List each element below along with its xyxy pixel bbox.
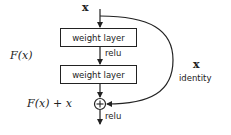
sum-label: F(x) + x: [27, 97, 72, 110]
identity-label: identity: [179, 73, 211, 83]
input-label: x: [82, 1, 89, 14]
weight-layer-1: weight layer: [60, 28, 137, 47]
sum-operator-icon: [95, 99, 106, 110]
residual-function-label: F(x): [10, 49, 32, 62]
relu-label-middle: relu: [105, 48, 121, 58]
shortcut-variable-label: x: [193, 58, 200, 71]
weight-layer-2: weight layer: [60, 65, 137, 84]
relu-label-output: relu: [105, 111, 121, 121]
